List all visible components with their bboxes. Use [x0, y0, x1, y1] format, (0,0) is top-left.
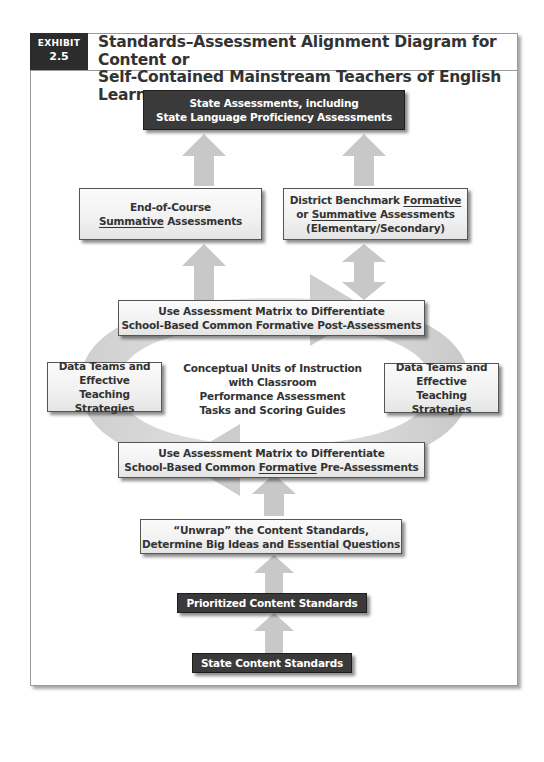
node-text: Data Teams and [59, 359, 151, 373]
node-text: Use Assessment Matrix to Differentiate [158, 304, 384, 318]
node-text: School-Based Common [124, 461, 258, 473]
node-text: Teaching Strategies [48, 387, 161, 415]
node-text: Assessments [164, 215, 242, 227]
node-post-assessments: Use Assessment Matrix to Differentiate S… [118, 300, 425, 336]
node-text: Prioritized Content Standards [186, 596, 357, 610]
node-text: Summative Assessments [99, 214, 242, 228]
node-state-assessments: State Assessments, including State Langu… [143, 90, 405, 130]
node-text: Pre-Assessments [317, 461, 419, 473]
node-text: State Content Standards [201, 656, 343, 670]
node-prioritized-standards: Prioritized Content Standards [177, 593, 367, 613]
node-unwrap-standards: “Unwrap” the Content Standards, Determin… [140, 519, 402, 554]
node-data-teams-left: Data Teams and Effective Teaching Strate… [47, 362, 162, 412]
double-arrow-icon [342, 244, 386, 300]
node-text: Tasks and Scoring Guides [200, 403, 346, 417]
node-text: or Summative Assessments [296, 207, 455, 221]
up-arrow-icon [252, 474, 296, 516]
node-text: State Assessments, including [189, 96, 358, 110]
up-arrow-icon [254, 613, 294, 653]
node-text: (Elementary/Secondary) [306, 221, 445, 235]
up-arrow-icon [182, 134, 226, 186]
node-text: Conceptual Units of Instruction [183, 361, 362, 375]
node-text: Effective [79, 373, 129, 387]
node-state-content-standards: State Content Standards [192, 653, 352, 673]
exhibit-number: 2.5 [30, 49, 88, 64]
node-text: Performance Assessment [200, 389, 346, 403]
node-data-teams-right: Data Teams and Effective Teaching Strate… [384, 363, 499, 413]
node-text: State Language Proficiency Assessments [156, 110, 392, 124]
up-arrow-icon [254, 555, 294, 593]
node-end-of-course: End-of-Course Summative Assessments [79, 188, 262, 240]
node-text: “Unwrap” the Content Standards, [173, 523, 368, 537]
node-text: Assessments [376, 208, 454, 220]
title-line-1: Standards–Assessment Alignment Diagram f… [98, 34, 513, 69]
underlined-term: Summative [312, 208, 377, 220]
node-text: Use Assessment Matrix to Differentiate [158, 446, 384, 460]
exhibit-label: EXHIBIT [30, 37, 88, 49]
node-text: Effective [416, 374, 466, 388]
exhibit-badge: EXHIBIT 2.5 [30, 33, 88, 70]
node-text: Teaching Strategies [385, 388, 498, 416]
node-text: District Benchmark [290, 194, 404, 206]
node-conceptual-units: Conceptual Units of Instruction with Cla… [180, 360, 365, 418]
up-arrow-icon [182, 244, 226, 300]
node-text: School-Based Common Formative Pre-Assess… [124, 460, 418, 474]
node-text: End-of-Course [130, 200, 211, 214]
node-pre-assessments: Use Assessment Matrix to Differentiate S… [118, 442, 425, 478]
node-text: or [296, 208, 311, 220]
underlined-term: Summative [99, 215, 164, 227]
node-text: Data Teams and [396, 360, 488, 374]
node-district-benchmark: District Benchmark Formative or Summativ… [283, 188, 468, 240]
underlined-term: Formative [403, 194, 461, 206]
node-text: School-Based Common Formative Post-Asses… [121, 318, 421, 332]
up-arrow-icon [342, 134, 386, 186]
node-text: with Classroom [228, 375, 316, 389]
node-text: District Benchmark Formative [290, 193, 462, 207]
node-text: Determine Big Ideas and Essential Questi… [142, 537, 400, 551]
underlined-term: Formative [259, 461, 317, 473]
